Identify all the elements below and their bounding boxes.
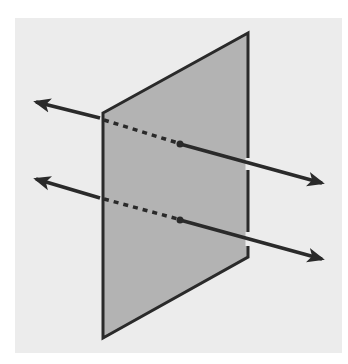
parallel-lines-plane-diagram bbox=[0, 0, 348, 364]
diagram-canvas bbox=[0, 0, 348, 364]
